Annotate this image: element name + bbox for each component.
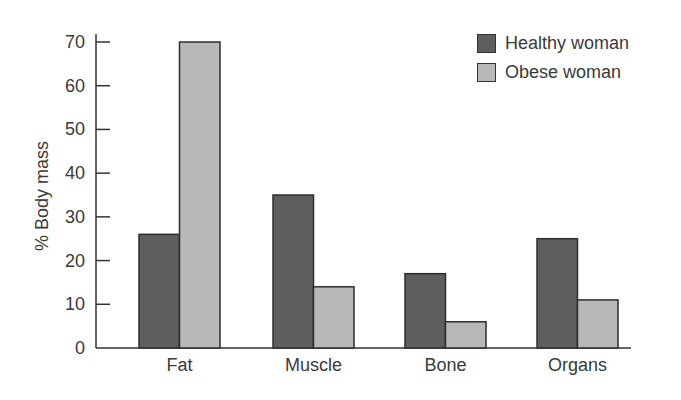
legend-item: Healthy woman	[477, 33, 629, 54]
y-tick-label: 10	[45, 295, 85, 313]
x-tick-label: Bone	[386, 355, 506, 376]
x-tick-label: Muscle	[254, 355, 374, 376]
legend-label: Healthy woman	[505, 33, 629, 54]
y-tick-label: 40	[45, 164, 85, 182]
bar-fat-healthy	[139, 234, 180, 348]
bar-bone-obese	[446, 322, 487, 348]
y-tick-label: 0	[45, 339, 85, 357]
x-tick-label: Organs	[518, 355, 638, 376]
y-tick-label: 60	[45, 77, 85, 95]
legend-swatch	[477, 63, 496, 82]
bar-organs-obese	[578, 300, 619, 348]
legend-item: Obese woman	[477, 62, 621, 83]
y-axis-label: % Body mass	[32, 141, 53, 251]
y-tick-label: 70	[45, 33, 85, 51]
bar-fat-obese	[180, 42, 221, 348]
legend-label: Obese woman	[505, 62, 621, 83]
bar-bone-healthy	[405, 274, 446, 348]
x-tick-label: Fat	[120, 355, 240, 376]
legend-swatch	[477, 34, 496, 53]
plot-area	[0, 0, 681, 400]
y-tick-label: 20	[45, 252, 85, 270]
bar-muscle-healthy	[273, 195, 314, 348]
bar-organs-healthy	[537, 239, 578, 348]
bar-chart: % Body mass 010203040506070 FatMuscleBon…	[0, 0, 681, 400]
y-tick-label: 30	[45, 208, 85, 226]
bar-muscle-obese	[314, 287, 355, 348]
y-tick-label: 50	[45, 120, 85, 138]
